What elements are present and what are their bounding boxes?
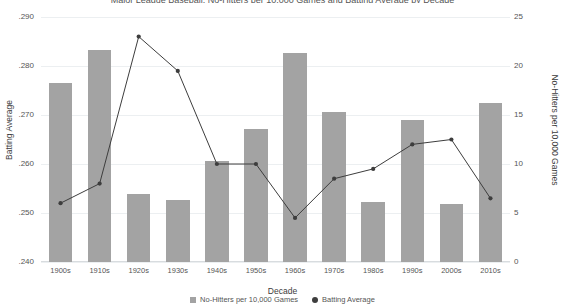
- x-axis-label-1900s: 1900s: [41, 266, 80, 275]
- line-point-1970s: [332, 177, 336, 181]
- y-axis-right-tick: 10: [514, 160, 548, 168]
- line-path-batting-average: [61, 37, 491, 218]
- dot-swatch-icon: [312, 297, 318, 303]
- line-point-1910s: [98, 182, 102, 186]
- line-point-2010s: [488, 196, 492, 200]
- gridline: [41, 262, 510, 263]
- line-point-2000s: [449, 137, 453, 141]
- x-axis-label-1950s: 1950s: [236, 266, 275, 275]
- y-axis-left-tick: .250: [0, 209, 34, 217]
- x-axis-label-2000s: 2000s: [432, 266, 471, 275]
- x-axis-label-1920s: 1920s: [119, 266, 158, 275]
- line-point-1960s: [293, 216, 297, 220]
- legend-item-batting-average: Batting Average: [312, 295, 375, 304]
- line-point-1920s: [137, 35, 141, 39]
- legend-label-batting-average: Batting Average: [322, 295, 375, 304]
- line-point-1980s: [371, 167, 375, 171]
- x-axis-label-1910s: 1910s: [80, 266, 119, 275]
- x-axis-label-2010s: 2010s: [471, 266, 510, 275]
- chart-legend: No-Hitters per 10,000 Games Batting Aver…: [0, 295, 565, 304]
- y-axis-left-tick: .280: [0, 62, 34, 70]
- x-axis-label-1970s: 1970s: [315, 266, 354, 275]
- x-axis-label-1960s: 1960s: [276, 266, 315, 275]
- bar-swatch-icon: [190, 297, 196, 303]
- y-axis-right-tick: 15: [514, 111, 548, 119]
- x-axis-label-1930s: 1930s: [158, 266, 197, 275]
- line-point-1900s: [58, 201, 62, 205]
- line-point-1930s: [176, 69, 180, 73]
- y-axis-right-tick: 25: [514, 13, 548, 21]
- y-axis-right-tick: 5: [514, 209, 548, 217]
- x-axis-label-1990s: 1990s: [393, 266, 432, 275]
- y-axis-right-tick: 0: [514, 258, 548, 266]
- legend-label-no-hitters: No-Hitters per 10,000 Games: [200, 295, 298, 304]
- y-axis-left-tick: .260: [0, 160, 34, 168]
- line-point-1950s: [254, 162, 258, 166]
- chart-title: Major League Baseball: No-Hitters per 10…: [0, 0, 565, 3]
- x-axis-label-1940s: 1940s: [197, 266, 236, 275]
- y-axis-left-tick: .240: [0, 258, 34, 266]
- line-point-1940s: [215, 162, 219, 166]
- y-axis-right-tick: 20: [514, 62, 548, 70]
- x-axis-label-1980s: 1980s: [354, 266, 393, 275]
- legend-item-no-hitters: No-Hitters per 10,000 Games: [190, 295, 298, 304]
- line-point-1990s: [410, 142, 414, 146]
- y-axis-left-tick: .290: [0, 13, 34, 21]
- y-axis-right-title: No-Hitters per 10,000 Games: [550, 60, 560, 200]
- y-axis-left-tick: .270: [0, 111, 34, 119]
- batting-average-line-series: [41, 17, 510, 262]
- chart-container: Major League Baseball: No-Hitters per 10…: [0, 0, 565, 306]
